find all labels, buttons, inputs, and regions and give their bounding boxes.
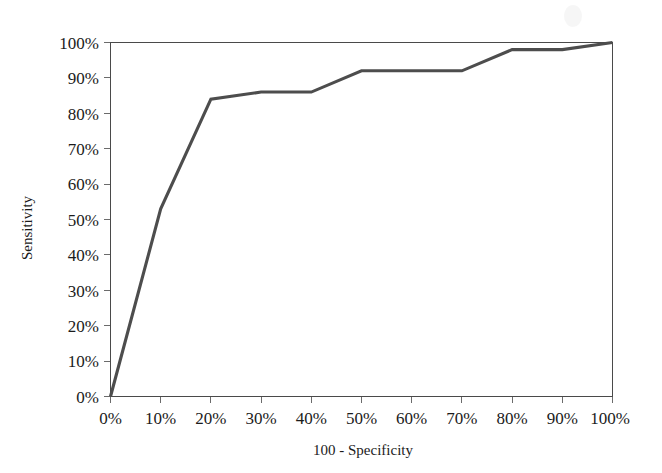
y-tick-label: 70% [68, 140, 99, 159]
y-tick-label: 10% [68, 352, 99, 371]
y-tick-label: 30% [68, 282, 99, 301]
y-tick-label: 90% [68, 69, 99, 88]
y-tick-label: 40% [68, 246, 99, 265]
y-tick-label: 20% [68, 317, 99, 336]
x-tick-label: 30% [246, 409, 277, 428]
x-tick-label: 90% [547, 409, 578, 428]
roc-curve-chart: 100% 90% 80% 70% 60% 50% 40% 30% 20% 10%… [0, 0, 662, 473]
x-tick-label: 50% [346, 409, 377, 428]
y-tick-label: 100% [59, 34, 99, 53]
y-tick-label: 50% [68, 211, 99, 230]
x-tick-label: 40% [296, 409, 327, 428]
x-tick-label: 100% [590, 409, 630, 428]
roc-chart-figure: 100% 90% 80% 70% 60% 50% 40% 30% 20% 10%… [0, 0, 662, 473]
y-axis-title: Sensitivity [19, 195, 35, 260]
plot-area [110, 42, 612, 396]
x-tick-label: 70% [446, 409, 477, 428]
x-tick-label: 80% [497, 409, 528, 428]
x-tick-label: 10% [145, 409, 176, 428]
x-tick-label: 0% [99, 409, 122, 428]
y-tick-label: 0% [76, 388, 99, 407]
y-tick-label: 80% [68, 105, 99, 124]
x-tick-label: 60% [396, 409, 427, 428]
x-axis-title: 100 - Specificity [313, 442, 413, 458]
x-tick-label: 20% [195, 409, 226, 428]
y-tick-label: 60% [68, 175, 99, 194]
